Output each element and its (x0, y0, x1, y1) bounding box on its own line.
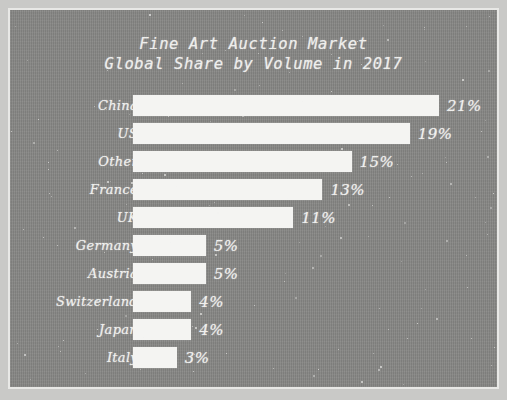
bar (133, 123, 410, 144)
bar-track: 15% (133, 151, 497, 172)
category-label: Switzerland (10, 291, 138, 312)
category-label: Germany (10, 235, 138, 256)
bar-track: 5% (133, 263, 497, 284)
category-label: Italy (10, 347, 138, 368)
value-label: 4% (199, 291, 224, 312)
bar (133, 263, 206, 284)
bar-track: 11% (133, 207, 497, 228)
value-label: 11% (301, 207, 336, 228)
bar-row: UK11% (10, 207, 497, 235)
bar-row: US19% (10, 123, 497, 151)
bar-row: Italy3% (10, 347, 497, 375)
bar (133, 207, 293, 228)
bar (133, 319, 191, 340)
chart-title-block: Fine Art Auction Market Global Share by … (10, 34, 497, 74)
bar-row: Other15% (10, 151, 497, 179)
category-label: France (10, 179, 138, 200)
bar-track: 13% (133, 179, 497, 200)
value-label: 15% (360, 151, 395, 172)
bar-row: China21% (10, 95, 497, 123)
bar-track: 5% (133, 235, 497, 256)
bar-row: France13% (10, 179, 497, 207)
bar (133, 95, 439, 116)
value-label: 4% (199, 319, 224, 340)
category-label: Other (10, 151, 138, 172)
category-label: Austria (10, 263, 138, 284)
category-label: UK (10, 207, 138, 228)
bar (133, 291, 191, 312)
value-label: 21% (447, 95, 482, 116)
bar (133, 179, 322, 200)
value-label: 3% (185, 347, 210, 368)
category-label: US (10, 123, 138, 144)
bar-track: 4% (133, 319, 497, 340)
bar-track: 21% (133, 95, 497, 116)
chart-subtitle: Global Share by Volume in 2017 (10, 54, 497, 74)
bar-track: 19% (133, 123, 497, 144)
bar-chart: Fine Art Auction Market Global Share by … (10, 10, 497, 387)
chalkboard-panel: Fine Art Auction Market Global Share by … (10, 10, 497, 387)
bar (133, 347, 177, 368)
value-label: 13% (330, 179, 365, 200)
chart-title: Fine Art Auction Market (139, 35, 367, 53)
bar-track: 4% (133, 291, 497, 312)
bar (133, 151, 352, 172)
category-label: China (10, 95, 138, 116)
bar-row: Switzerland4% (10, 291, 497, 319)
category-label: Japan (10, 319, 138, 340)
value-label: 5% (214, 263, 239, 284)
bar-row: Austria5% (10, 263, 497, 291)
bar-row: Germany5% (10, 235, 497, 263)
bar-track: 3% (133, 347, 497, 368)
value-label: 19% (418, 123, 453, 144)
bar-row: Japan4% (10, 319, 497, 347)
bar (133, 235, 206, 256)
bar-rows: China21%US19%Other15%France13%UK11%Germa… (10, 95, 497, 375)
value-label: 5% (214, 235, 239, 256)
